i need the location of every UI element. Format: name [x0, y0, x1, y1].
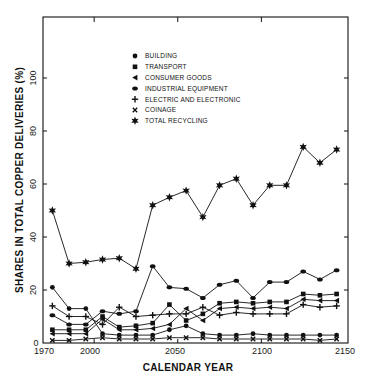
square-marker-icon: [267, 300, 272, 305]
x-tick-labels: 1970 2000 2050 2100 2150: [34, 346, 355, 356]
square-marker-icon: [318, 293, 323, 298]
triangle-left-marker-icon: [250, 306, 255, 312]
diamond-marker-icon: [183, 287, 189, 291]
circle-marker-icon: [318, 333, 323, 338]
diamond-marker-icon: [234, 279, 240, 283]
y-tick-40: 40: [28, 232, 38, 242]
plus-marker-icon: [133, 313, 139, 319]
legend-item-electric-and-electronic: ELECTRIC AND ELECTRONIC: [132, 96, 241, 103]
x-icon: [133, 108, 137, 112]
legend-item-consumer-goods: CONSUMER GOODS: [132, 74, 212, 81]
triangle-left-marker-icon: [334, 298, 339, 304]
diamond-marker-icon: [83, 322, 89, 326]
plus-marker-icon: [333, 303, 339, 309]
circle-marker-icon: [83, 306, 88, 311]
diamond-marker-icon: [217, 283, 223, 287]
square-marker-icon: [217, 301, 222, 306]
circle-marker-icon: [67, 306, 72, 311]
legend-item-building: BUILDING: [133, 52, 178, 59]
plus-marker-icon: [149, 312, 155, 318]
plus-marker-icon: [250, 311, 256, 317]
legend-label: BUILDING: [145, 52, 177, 59]
legend-label: TRANSPORT: [145, 63, 187, 70]
square-marker-icon: [201, 312, 206, 317]
square-marker-icon: [234, 300, 239, 305]
plus-marker-icon: [216, 312, 222, 318]
star-icon: [131, 117, 138, 125]
y-tick-0: 0: [33, 338, 38, 348]
x-tick-2000: 2000: [80, 346, 100, 356]
legend-item-industrial-equipment: INDUSTRIAL EQUIPMENT: [132, 85, 228, 93]
diamond-marker-icon: [150, 264, 156, 268]
y-tick-labels: 0 20 40 60 80 100: [28, 70, 39, 348]
square-marker-icon: [334, 292, 339, 297]
legend-label: CONSUMER GOODS: [145, 74, 212, 81]
series-consumer-goods: [50, 296, 339, 336]
series-line: [52, 299, 336, 333]
legend-item-coinage: COINAGE: [133, 106, 177, 113]
diamond-marker-icon: [317, 277, 323, 281]
plus-marker-icon: [183, 311, 189, 317]
plus-marker-icon: [300, 301, 306, 307]
plus-icon: [132, 96, 138, 102]
legend-item-total-recycling: TOTAL RECYCLING: [131, 117, 207, 125]
star-marker-icon: [166, 193, 173, 201]
plus-marker-icon: [233, 309, 239, 315]
x-tick-2050: 2050: [165, 346, 185, 356]
series-total-recycling: [49, 143, 341, 273]
square-marker-icon: [284, 300, 289, 305]
legend-item-transport: TRANSPORT: [133, 63, 187, 70]
plus-marker-icon: [283, 311, 289, 317]
legend: BUILDINGTRANSPORTCONSUMER GOODSINDUSTRIA…: [131, 52, 240, 125]
series-transport: [50, 292, 339, 332]
circle-marker-icon: [251, 331, 256, 336]
diamond-marker-icon: [200, 296, 206, 300]
triangle-left-marker-icon: [300, 296, 305, 302]
triangle-left-marker-icon: [317, 298, 322, 304]
circle-marker-icon: [167, 327, 172, 332]
diamond-marker-icon: [167, 285, 173, 289]
star-marker-icon: [333, 145, 340, 153]
x-tick-2150: 2150: [335, 346, 355, 356]
plus-marker-icon: [267, 311, 273, 317]
triangle-left-marker-icon: [167, 322, 172, 328]
series-line: [52, 294, 336, 330]
diamond-marker-icon: [334, 268, 340, 272]
y-tick-100: 100: [28, 70, 38, 85]
diamond-marker-icon: [284, 280, 290, 284]
series-line: [52, 266, 336, 324]
legend-label: TOTAL RECYCLING: [145, 117, 208, 124]
square-marker-icon: [251, 301, 256, 306]
series-line: [52, 147, 336, 269]
star-marker-icon: [233, 175, 240, 183]
y-tick-80: 80: [28, 126, 38, 136]
star-marker-icon: [183, 186, 190, 194]
star-marker-icon: [132, 265, 139, 273]
triangle-left-marker-icon: [284, 306, 289, 312]
y-tick-60: 60: [28, 179, 38, 189]
star-marker-icon: [49, 206, 56, 214]
plus-marker-icon: [49, 303, 55, 309]
data-series: [49, 143, 341, 343]
diamond-marker-icon: [300, 269, 306, 273]
square-marker-icon: [184, 318, 189, 323]
circle-marker-icon: [184, 323, 189, 328]
circle-marker-icon: [50, 285, 55, 290]
diamond-marker-icon: [100, 309, 106, 313]
square-marker-icon: [301, 292, 306, 297]
triangle-left-marker-icon: [234, 304, 239, 310]
copper-deliveries-chart: 1970 2000 2050 2100 2150 0 20 40 60 80 1…: [0, 0, 369, 381]
plus-marker-icon: [200, 304, 206, 310]
series-line: [52, 287, 336, 335]
star-marker-icon: [149, 201, 156, 209]
diamond-marker-icon: [50, 313, 56, 317]
star-marker-icon: [199, 213, 206, 221]
plus-marker-icon: [66, 313, 72, 319]
triangle-left-marker-icon: [150, 326, 155, 332]
diamond-marker-icon: [267, 280, 273, 284]
diamond-marker-icon: [116, 312, 122, 316]
diamond-marker-icon: [250, 296, 256, 300]
triangle-left-icon: [132, 75, 137, 81]
series-coinage: [50, 336, 339, 343]
square-icon: [133, 65, 138, 70]
